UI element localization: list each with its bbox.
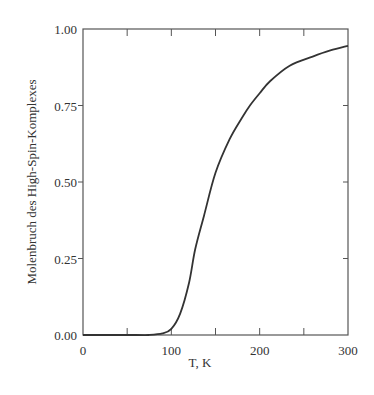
chart: 0100200300 0.000.250.500.751.00 T, K Mol… [0,0,374,395]
y-tick-label: 0.25 [54,252,77,267]
x-tick-label: 200 [250,343,270,358]
x-tick-label: 300 [338,343,358,358]
x-tick-label: 100 [162,343,182,358]
y-axis-label: Molenbruch des High-Spin-Komplexes [24,79,39,284]
y-tick-label: 0.50 [54,175,77,190]
y-tick-label: 0.00 [54,328,77,343]
plot-frame [83,29,348,335]
x-axis-label: T, K [189,355,212,370]
y-tick-label: 0.75 [54,99,77,114]
data-line [83,46,348,335]
x-tick-label: 0 [80,343,87,358]
y-tick-label: 1.00 [54,22,77,37]
x-tick-labels: 0100200300 [80,343,358,358]
y-tick-labels: 0.000.250.500.751.00 [54,22,77,343]
